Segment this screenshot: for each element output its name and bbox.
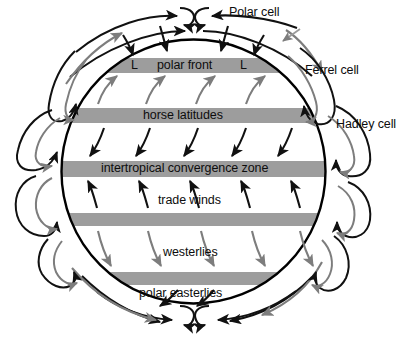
south-polar-swirl-east xyxy=(195,306,209,325)
label-polar-easterlies: polar easterlies xyxy=(139,287,222,300)
label-polar-front: polar front xyxy=(157,59,212,72)
label-itcz: intertropical convergence zone xyxy=(101,162,268,175)
label-ferrel-cell: Ferrel cell xyxy=(305,64,359,77)
circulation-diagram: Polar cell Ferrel cell Hadley cell L pol… xyxy=(0,0,413,339)
loop-south-left-outer xyxy=(39,239,75,288)
pressure-low-west: L xyxy=(131,59,138,72)
loop-north-ferrel-left-inner xyxy=(36,118,60,166)
band-unlabeled-south-horse xyxy=(50,213,340,226)
pressure-low-east: L xyxy=(240,59,247,72)
label-trade-winds: trade winds xyxy=(158,194,221,207)
band-unlabeled-south-polar xyxy=(50,272,340,285)
label-westerlies: westerlies xyxy=(163,246,218,259)
label-horse-latitudes: horse latitudes xyxy=(143,109,223,122)
south-polar-swirl-west xyxy=(180,306,194,325)
loop-north-hadley-left-inner xyxy=(36,178,57,229)
label-polar-cell: Polar cell xyxy=(229,6,279,19)
south-polar-arc-east-lower xyxy=(218,291,296,320)
north-polar-swirl-east xyxy=(195,8,209,25)
north-polar-swirl-west xyxy=(180,8,194,25)
label-hadley-cell: Hadley cell xyxy=(336,118,396,131)
surface-arrows-north-westerlies xyxy=(98,76,265,104)
loop-equator-right-inner xyxy=(337,186,354,234)
surface-arrows-north-trade-winds xyxy=(90,128,292,156)
loop-south-left-inner xyxy=(54,241,77,284)
